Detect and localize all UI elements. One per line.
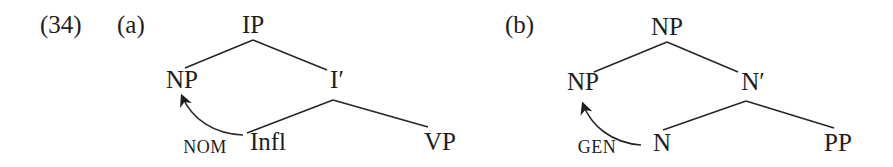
case-label-gen: GEN [578,137,617,157]
node-nbar: N′ [741,68,765,95]
tree-a: (a) IP NP I′ Infl VP NOM [117,11,456,157]
branch-np-nbar [667,42,738,72]
branch-ip-ibar [253,40,327,70]
node-n: N [653,129,671,156]
branch-nbar-pp [746,101,834,128]
branch-nbar-n [663,101,746,130]
case-label-nom: NOM [183,137,227,157]
branch-ip-np [185,40,253,68]
branch-ibar-vp [333,100,428,127]
node-infl: Infl [250,128,286,155]
node-np-root: NP [651,13,683,40]
node-vp: VP [424,128,456,155]
syntax-tree-figure: (34) (a) IP NP I′ Infl VP NOM (b) NP NP … [0,0,893,167]
node-np-spec: NP [166,66,198,93]
example-number: (34) [40,11,82,39]
node-ip: IP [242,11,264,38]
node-np-spec-b: NP [567,68,599,95]
tree-b-label: (b) [505,11,534,39]
node-ibar: I′ [330,66,344,93]
case-arrow-nom [182,96,243,135]
tree-b: (b) NP NP N′ N PP GEN [505,11,852,157]
branch-np-np [594,42,667,72]
tree-a-label: (a) [117,11,145,39]
node-pp: PP [824,129,852,156]
